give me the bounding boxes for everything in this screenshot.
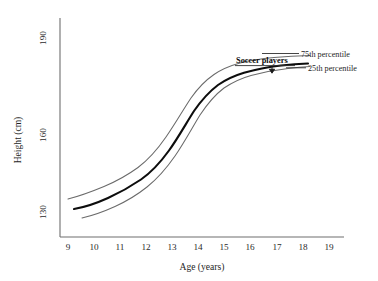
x-tick-label-9: 9 [66,242,71,252]
x-tick-label-15: 15 [219,242,229,252]
x-tick-label-17: 17 [272,242,282,252]
y-tick-label-190: 190 [38,31,48,45]
soccer-arrow-head [269,69,274,73]
height-growth-chart: 75th percentile 25th percentile Soccer p… [0,0,378,281]
chart-container: 75th percentile 25th percentile Soccer p… [0,0,378,281]
x-tick-label-14: 14 [193,242,203,252]
x-tick-label-13: 13 [167,242,177,252]
annotation-25th-percentile: 25th percentile [308,64,357,73]
y-axis-title: Height (cm) [12,117,24,164]
annotation-75th-percentile: 75th percentile [301,50,350,59]
y-tick-label-160: 160 [38,128,48,142]
x-tick-label-16: 16 [245,242,255,252]
x-tick-label-19: 19 [324,242,334,252]
curve-75th-percentile [68,55,310,199]
annotation-soccer-players: Soccer players [236,56,288,65]
x-tick-label-11: 11 [116,242,125,252]
y-tick-label-130: 130 [38,205,48,219]
x-tick-label-12: 12 [141,242,151,252]
curve-soccer-players [74,64,308,210]
x-tick-label-10: 10 [89,242,99,252]
x-axis-title: Age (years) [179,261,224,273]
curve-25th-percentile [82,67,310,218]
x-tick-label-18: 18 [298,242,308,252]
